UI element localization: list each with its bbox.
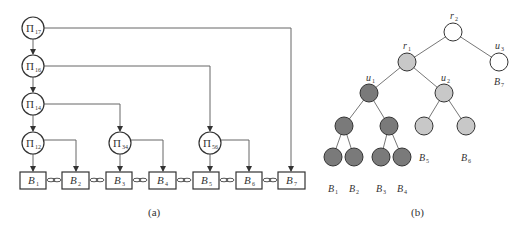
block-B3: B 3 (106, 172, 132, 189)
label-u1: u1 (366, 72, 375, 84)
svg-text:1: 1 (372, 78, 375, 84)
tree-node-B5 (415, 117, 433, 135)
tree-node-l3-1 (335, 117, 353, 135)
svg-text:B: B (328, 183, 334, 194)
tree-node-r2 (444, 23, 462, 41)
svg-text:3: 3 (383, 189, 386, 195)
svg-text:u: u (366, 72, 371, 83)
svg-text:u: u (495, 40, 500, 51)
svg-text:17: 17 (35, 29, 41, 35)
svg-text:Π: Π (26, 137, 34, 149)
tree-node-B4 (393, 148, 411, 166)
svg-text:2: 2 (455, 16, 458, 22)
block-B4: B 4 (149, 172, 176, 189)
svg-text:3: 3 (501, 46, 504, 52)
label-B7: B7 (494, 76, 504, 88)
caption-b: (b) (411, 206, 424, 219)
label-B5: B5 (419, 152, 429, 164)
svg-text:B: B (461, 152, 467, 163)
block-B6: B 6 (236, 172, 262, 189)
chain-link-icon (90, 178, 104, 182)
block-B5: B 5 (193, 172, 219, 189)
label-u3: u3 (495, 40, 504, 52)
panel-b-labels: r2 r1 u3 B7 u1 u2 B5 B6 B1 B2 B3 B4 (328, 10, 504, 195)
svg-text:12: 12 (35, 144, 41, 150)
svg-text:r: r (450, 10, 454, 21)
svg-text:B: B (349, 183, 355, 194)
pi-node-12: Π 12 (22, 132, 44, 154)
svg-text:34: 34 (122, 144, 128, 150)
diagram-canvas: Π 17 Π 16 Π 14 Π 12 Π 34 Π 56 B 1 (0, 0, 529, 230)
svg-text:6: 6 (252, 181, 255, 187)
label-r2: r2 (450, 10, 458, 22)
chain-link-icon (177, 178, 191, 182)
pi-node-17: Π 17 (22, 17, 44, 39)
svg-text:B: B (244, 174, 251, 186)
block-B2: B 2 (62, 172, 89, 189)
svg-text:B: B (494, 76, 500, 87)
svg-text:4: 4 (165, 181, 168, 187)
svg-text:B: B (114, 174, 121, 186)
tree-node-u1 (360, 84, 378, 102)
chain-link-icon (133, 178, 147, 182)
svg-text:2: 2 (356, 189, 359, 195)
pi-node-14: Π 14 (22, 93, 44, 115)
svg-text:3: 3 (122, 181, 125, 187)
label-u2: u2 (441, 72, 450, 84)
svg-text:B: B (201, 174, 208, 186)
svg-text:1: 1 (408, 46, 411, 52)
svg-text:Π: Π (203, 137, 211, 149)
svg-text:B: B (70, 174, 77, 186)
panel-b-edges (333, 32, 499, 157)
block-B1: B 1 (20, 172, 46, 189)
pi-node-56: Π 56 (199, 132, 221, 154)
label-B2: B2 (349, 183, 359, 195)
tree-node-l3-2 (380, 117, 398, 135)
svg-text:2: 2 (447, 78, 450, 84)
panel-b-nodes (324, 23, 508, 166)
tree-node-B3 (372, 148, 390, 166)
svg-text:5: 5 (426, 158, 429, 164)
svg-text:1: 1 (36, 181, 39, 187)
label-B1: B1 (328, 183, 338, 195)
svg-text:2: 2 (78, 181, 81, 187)
tree-node-B1 (324, 148, 342, 166)
svg-text:6: 6 (468, 158, 471, 164)
svg-text:1: 1 (335, 189, 338, 195)
svg-text:u: u (441, 72, 446, 83)
tree-node-B6 (457, 117, 475, 135)
svg-text:B: B (397, 183, 403, 194)
svg-text:B: B (376, 183, 382, 194)
chain-link-icon (220, 178, 234, 182)
panel-a-edges (33, 28, 291, 171)
pi-node-34: Π 34 (109, 132, 131, 154)
label-B6: B6 (461, 152, 471, 164)
svg-text:56: 56 (212, 144, 218, 150)
label-B4: B4 (397, 183, 407, 195)
svg-text:7: 7 (501, 82, 504, 88)
svg-text:r: r (403, 40, 407, 51)
svg-text:B: B (286, 174, 293, 186)
label-r1: r1 (403, 40, 411, 52)
block-B7: B 7 (278, 172, 305, 189)
tree-node-u3 (490, 53, 508, 71)
svg-text:Π: Π (26, 22, 34, 34)
tree-node-r1 (398, 53, 416, 71)
svg-text:Π: Π (26, 98, 34, 110)
tree-node-B2 (345, 148, 363, 166)
svg-text:Π: Π (26, 60, 34, 72)
svg-text:B: B (419, 152, 425, 163)
pi-node-16: Π 16 (22, 55, 44, 77)
svg-text:5: 5 (209, 181, 212, 187)
svg-text:14: 14 (35, 105, 41, 111)
svg-text:B: B (28, 174, 35, 186)
chain-link-icon (263, 178, 277, 182)
svg-text:4: 4 (404, 189, 407, 195)
svg-text:Π: Π (113, 137, 121, 149)
svg-text:B: B (157, 174, 164, 186)
tree-node-u2 (435, 84, 453, 102)
svg-text:7: 7 (294, 181, 297, 187)
caption-a: (a) (148, 206, 161, 219)
label-B3: B3 (376, 183, 386, 195)
svg-text:16: 16 (35, 67, 41, 73)
